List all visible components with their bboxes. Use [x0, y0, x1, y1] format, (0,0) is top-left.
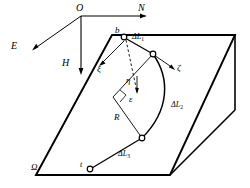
prism-bottom-right-edge [170, 110, 235, 175]
borehole-geometry-figure: O N E H b t ξ ζ η ε Ω R ΔL1 ΔL2 ΔL3 [0, 0, 250, 188]
label-angle-zeta: ζ [177, 64, 181, 73]
xi-arrow-line [101, 41, 124, 64]
station-marker-t [87, 166, 93, 172]
label-station-b: b [115, 26, 120, 35]
label-north-N: N [138, 3, 145, 13]
label-origin-O: O [76, 3, 83, 13]
label-angle-omega: Ω [31, 163, 38, 172]
axis-depth-arrowhead [79, 68, 84, 75]
axis-east-line [34, 16, 81, 49]
label-depth-H: H [62, 58, 69, 68]
inclined-plane-face [36, 35, 235, 175]
station-marker-b [121, 34, 127, 40]
label-radius-R: R [114, 113, 120, 122]
station-marker-middle [150, 51, 156, 57]
delta-l3-text: ΔL [118, 149, 127, 158]
segment-delta-l2-arc [142, 54, 165, 138]
label-angle-epsilon: ε [129, 95, 133, 104]
label-delta-l1: ΔL1 [132, 33, 144, 41]
eta-arrow-group [135, 76, 139, 94]
label-angle-eta: η [126, 76, 130, 85]
zeta-arrow-group [154, 55, 175, 70]
axis-north-arrowhead [140, 14, 146, 19]
delta-l1-subscript: 1 [141, 36, 144, 42]
label-east-E: E [11, 41, 17, 51]
delta-l2-text: ΔL [171, 100, 180, 109]
segment-delta-l3 [92, 138, 142, 168]
delta-l2-subscript: 2 [180, 104, 183, 110]
delta-l3-subscript: 3 [127, 153, 130, 159]
label-delta-l2: ΔL2 [171, 101, 183, 109]
delta-l1-text: ΔL [132, 32, 141, 41]
label-station-t: t [80, 161, 82, 169]
radius-line-upper [113, 54, 153, 97]
epsilon-angle-tick [120, 90, 126, 102]
label-delta-l3: ΔL3 [118, 150, 130, 158]
axis-group [32, 14, 146, 75]
figure-vector-canvas [0, 0, 250, 188]
eta-arrowhead [135, 88, 139, 94]
axis-east-arrowhead [32, 44, 39, 51]
label-angle-xi: ξ [97, 65, 101, 74]
station-marker-lower [139, 135, 145, 141]
prism-outline-group [36, 35, 235, 175]
radius-construction-group [113, 54, 153, 138]
